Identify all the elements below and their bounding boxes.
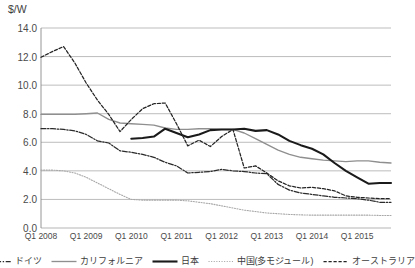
- y-tick-label: 4.0: [3, 165, 37, 176]
- legend-label: 日本: [181, 257, 199, 266]
- legend-item: 日本: [152, 257, 199, 266]
- x-tick-label: Q1 2011: [160, 231, 192, 241]
- y-axis-tick-labels: 0.02.04.06.08.010.012.014.0: [0, 0, 37, 268]
- legend-item: ドイツ: [0, 257, 42, 266]
- series-line-1: [41, 113, 391, 163]
- y-tick-label: 6.0: [3, 137, 37, 148]
- x-tick-label: Q1 2012: [205, 231, 238, 241]
- y-tick-label: 10.0: [3, 80, 37, 91]
- legend-label: カリフォルニア: [80, 257, 143, 266]
- y-tick-label: 2.0: [3, 194, 37, 205]
- legend-swatch-line: [323, 257, 349, 266]
- legend-swatch-line: [51, 257, 77, 266]
- legend-swatch-line: [152, 257, 178, 266]
- x-tick-label: Q1 2014: [296, 231, 329, 241]
- y-tick-label: 8.0: [3, 108, 37, 119]
- legend-item: オーストラリア: [323, 257, 415, 266]
- x-tick-label: Q1 2009: [70, 231, 103, 241]
- chart-legend: ドイツカリフォルニア日本中国(多モジュール)オーストラリア: [0, 257, 400, 266]
- series-line-4: [41, 47, 391, 199]
- y-tick-label: 14.0: [3, 23, 37, 34]
- legend-label: 中国(多モジュール): [237, 257, 314, 266]
- y-tick-label: 12.0: [3, 51, 37, 62]
- x-tick-label: Q1 2008: [25, 231, 58, 241]
- legend-swatch-line: [0, 257, 12, 266]
- legend-item: カリフォルニア: [51, 257, 143, 266]
- series-line-2: [131, 129, 391, 184]
- legend-item: 中国(多モジュール): [208, 257, 314, 266]
- legend-label: オーストラリア: [352, 257, 415, 266]
- x-tick-label: Q1 2015: [341, 231, 374, 241]
- legend-label: ドイツ: [15, 257, 42, 266]
- x-tick-label: Q1 2010: [115, 231, 148, 241]
- x-tick-label: Q1 2013: [250, 231, 283, 241]
- legend-swatch-line: [208, 257, 234, 266]
